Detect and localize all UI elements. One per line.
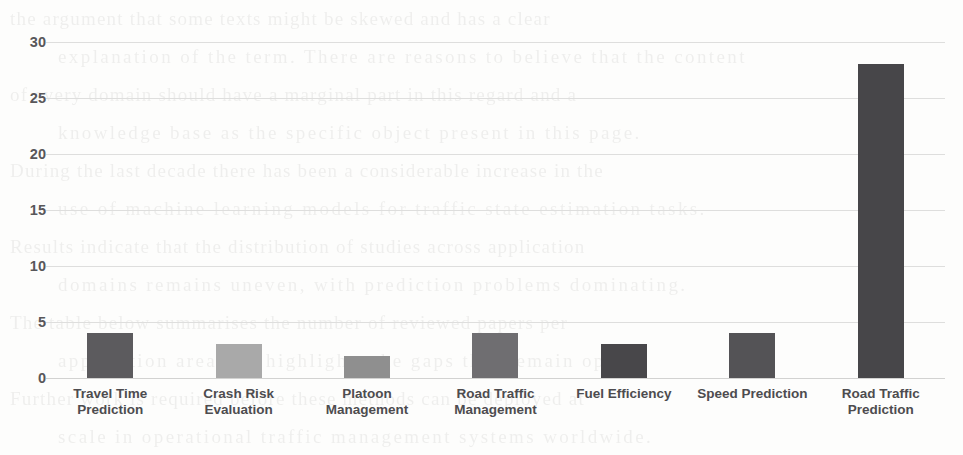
gridline bbox=[46, 378, 945, 379]
x-axis-category-labels: Travel TimePredictionCrash RiskEvaluatio… bbox=[46, 386, 945, 432]
bar-slot bbox=[688, 42, 816, 378]
bar[interactable] bbox=[601, 344, 647, 378]
y-axis-tick-label: 25 bbox=[6, 90, 46, 106]
x-axis-category-label-line: Prediction bbox=[805, 402, 957, 418]
x-axis-category-label-line: Road Traffic bbox=[805, 386, 957, 402]
x-axis-category-label-line: Management bbox=[419, 402, 571, 418]
bar[interactable] bbox=[216, 344, 262, 378]
bar-slot bbox=[174, 42, 302, 378]
y-axis-tick-label: 10 bbox=[6, 258, 46, 274]
bar-slot bbox=[303, 42, 431, 378]
bar-chart: 302520151050 Travel TimePredictionCrash … bbox=[0, 0, 963, 455]
bar[interactable] bbox=[472, 333, 518, 378]
y-axis-tick-label: 15 bbox=[6, 202, 46, 218]
bar-slot bbox=[560, 42, 688, 378]
bar[interactable] bbox=[858, 64, 904, 378]
bar-slot bbox=[431, 42, 559, 378]
bar[interactable] bbox=[344, 356, 390, 378]
x-axis-category-label: Road TrafficPrediction bbox=[805, 386, 957, 418]
bar-slot bbox=[817, 42, 945, 378]
y-axis-tick-label: 5 bbox=[6, 314, 46, 330]
bar-slot bbox=[46, 42, 174, 378]
y-axis-tick-label: 0 bbox=[6, 370, 46, 386]
chart-page: the argument that some texts might be sk… bbox=[0, 0, 963, 455]
y-axis-tick-label: 30 bbox=[6, 34, 46, 50]
plot-area bbox=[46, 42, 945, 378]
y-axis-tick-label: 20 bbox=[6, 146, 46, 162]
bar[interactable] bbox=[87, 333, 133, 378]
bar[interactable] bbox=[729, 333, 775, 378]
